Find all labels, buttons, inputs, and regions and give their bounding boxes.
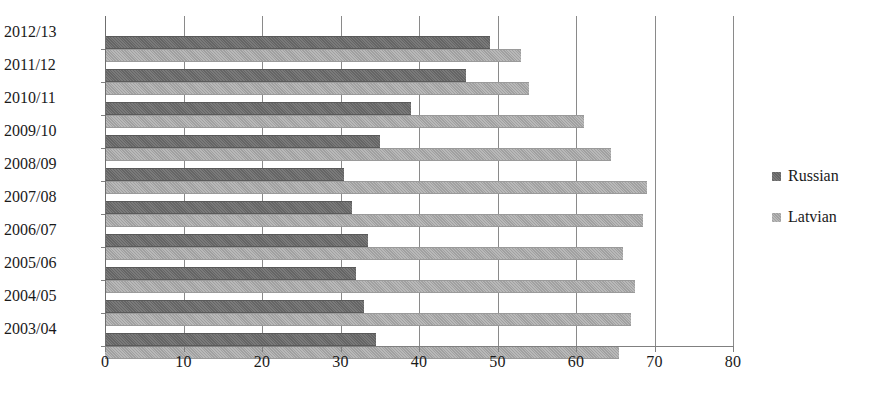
bar-russian-2006-07	[105, 234, 368, 247]
y-axis-label-2011-12: 2011/12	[4, 56, 100, 74]
chart-legend: RussianLatvian	[772, 168, 839, 250]
y-tick-2003-04	[101, 346, 105, 347]
bar-latvian-2005-06	[105, 280, 635, 293]
bar-russian-2005-06	[105, 267, 356, 280]
x-tick-80	[733, 347, 734, 352]
y-axis-label-2003-04: 2003/04	[4, 320, 100, 338]
legend-label-russian: Russian	[788, 168, 839, 184]
y-axis-label-2007-08: 2007/08	[4, 188, 100, 206]
bar-latvian-2006-07	[105, 247, 623, 260]
y-tick-2012-13	[101, 49, 105, 50]
x-tick-label-40: 40	[399, 353, 439, 371]
legend-swatch-russian-icon	[772, 172, 781, 181]
x-tick-70	[655, 347, 656, 352]
bar-latvian-2010-11	[105, 115, 584, 128]
gridline-70	[655, 16, 656, 346]
y-axis-label-2006-07: 2006/07	[4, 221, 100, 239]
bar-russian-2011-12	[105, 69, 466, 82]
legend-label-latvian: Latvian	[788, 209, 837, 225]
x-tick-40	[419, 347, 420, 352]
plot-area	[105, 16, 733, 346]
x-tick-20	[262, 347, 263, 352]
x-tick-label-50: 50	[478, 353, 518, 371]
y-tick-2004-05	[101, 313, 105, 314]
y-tick-2009-10	[101, 148, 105, 149]
bar-latvian-2012-13	[105, 49, 521, 62]
bar-russian-2008-09	[105, 168, 344, 181]
bar-russian-2009-10	[105, 135, 380, 148]
y-tick-2006-07	[101, 247, 105, 248]
y-axis-label-2008-09: 2008/09	[4, 155, 100, 173]
x-tick-10	[184, 347, 185, 352]
y-tick-2008-09	[101, 181, 105, 182]
bar-latvian-2011-12	[105, 82, 529, 95]
y-axis-label-2012-13: 2012/13	[4, 23, 100, 41]
legend-swatch-latvian-icon	[772, 213, 781, 222]
x-tick-0	[105, 347, 106, 352]
x-tick-label-60: 60	[556, 353, 596, 371]
y-tick-2010-11	[101, 115, 105, 116]
y-axis-label-2009-10: 2009/10	[4, 122, 100, 140]
bar-latvian-2007-08	[105, 214, 643, 227]
y-axis-label-2010-11: 2010/11	[4, 89, 100, 107]
x-tick-label-30: 30	[321, 353, 361, 371]
x-tick-50	[498, 347, 499, 352]
y-tick-2005-06	[101, 280, 105, 281]
bar-russian-2012-13	[105, 36, 490, 49]
x-tick-label-70: 70	[635, 353, 675, 371]
y-tick-2007-08	[101, 214, 105, 215]
legend-item-russian[interactable]: Russian	[772, 168, 839, 184]
gridline-80	[733, 16, 734, 346]
y-axis-label-2005-06: 2005/06	[4, 254, 100, 272]
x-tick-label-10: 10	[164, 353, 204, 371]
legend-item-latvian[interactable]: Latvian	[772, 209, 839, 225]
y-axis-line	[105, 16, 106, 347]
bar-russian-2004-05	[105, 300, 364, 313]
y-tick-2011-12	[101, 82, 105, 83]
x-tick-label-80: 80	[713, 353, 753, 371]
chart-figure: RussianLatvian 010203040506070802012/132…	[0, 0, 874, 394]
x-tick-label-0: 0	[85, 353, 125, 371]
x-tick-60	[576, 347, 577, 352]
bar-russian-2010-11	[105, 102, 411, 115]
bar-latvian-2004-05	[105, 313, 631, 326]
y-axis-label-2004-05: 2004/05	[4, 287, 100, 305]
bar-latvian-2009-10	[105, 148, 611, 161]
x-tick-30	[341, 347, 342, 352]
bar-latvian-2008-09	[105, 181, 647, 194]
bar-russian-2007-08	[105, 201, 352, 214]
bar-russian-2003-04	[105, 333, 376, 346]
x-tick-label-20: 20	[242, 353, 282, 371]
